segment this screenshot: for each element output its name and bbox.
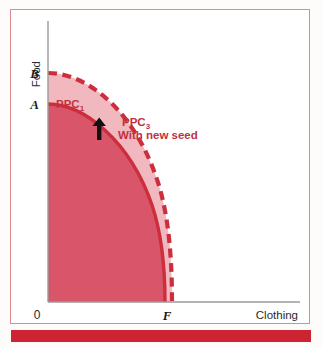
ppc-chart: Food Clothing 0 B A F PPC1 PPC3 With new… — [10, 9, 310, 324]
tick-b-label: B — [29, 66, 39, 81]
origin-label: 0 — [34, 308, 41, 322]
x-axis-label: Clothing — [256, 309, 298, 321]
ppc3-label-text: PPC — [122, 116, 146, 128]
ppc1-label-text: PPC — [56, 98, 80, 110]
ppc1-label-subscript: 1 — [80, 104, 85, 113]
ppc-figure: Food Clothing 0 B A F PPC1 PPC3 With new… — [0, 0, 322, 348]
tick-f-label: F — [162, 308, 172, 323]
ppc3-caption: With new seed — [118, 129, 198, 141]
bottom-accent-bar — [11, 330, 311, 342]
tick-a-label: A — [29, 97, 39, 112]
